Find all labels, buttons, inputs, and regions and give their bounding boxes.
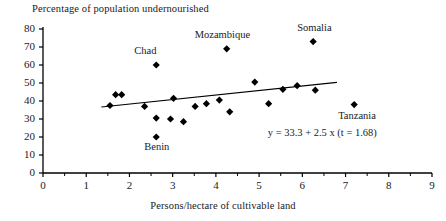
y-tick-label: 50 <box>9 76 35 88</box>
x-tick-label: 4 <box>206 179 226 191</box>
y-tick-label: 60 <box>9 58 35 70</box>
x-axis-title: Persons/hectare of cultivable land <box>0 200 446 211</box>
y-tick-label: 0 <box>9 166 35 178</box>
data-point-label: Somalia <box>297 22 331 33</box>
y-tick-label: 80 <box>9 22 35 34</box>
y-tick-label: 30 <box>9 112 35 124</box>
x-tick-label: 6 <box>292 179 312 191</box>
data-point-label: Mozambique <box>195 29 250 40</box>
data-point-label: Chad <box>134 45 156 56</box>
x-tick-label: 3 <box>163 179 183 191</box>
y-tick-label: 70 <box>9 40 35 52</box>
y-tick-label: 40 <box>9 94 35 106</box>
y-tick-label: 20 <box>9 130 35 142</box>
x-tick-label: 2 <box>119 179 139 191</box>
x-tick-label: 7 <box>336 179 356 191</box>
x-tick-label: 5 <box>249 179 269 191</box>
scatter-chart: Percentage of population undernourished … <box>0 0 446 221</box>
x-tick-label: 1 <box>76 179 96 191</box>
y-tick-label: 10 <box>9 148 35 160</box>
x-tick-label: 0 <box>33 179 53 191</box>
regression-equation: y = 33.3 + 2.5 x (t = 1.68) <box>268 127 377 138</box>
x-tick-label: 8 <box>379 179 399 191</box>
data-point-label: Tanzania <box>338 110 376 121</box>
data-point-label: Benin <box>144 141 169 152</box>
x-tick-label: 9 <box>422 179 442 191</box>
